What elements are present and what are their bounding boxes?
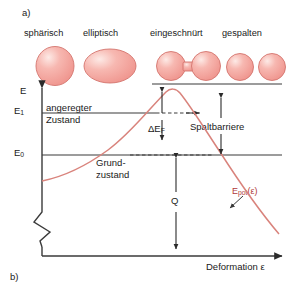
shape-spherical xyxy=(36,47,74,86)
figure-graphics xyxy=(0,0,292,291)
epot-pointer-arrow xyxy=(230,196,243,208)
axis-break-zigzag xyxy=(34,205,50,247)
shape-split xyxy=(227,54,286,81)
shape-elliptical xyxy=(84,49,136,83)
fission-potential-figure: a) b) sphärisch elliptisch eingeschnürt … xyxy=(0,0,292,291)
potential-energy-curve xyxy=(42,89,279,234)
shape-necked xyxy=(157,52,221,81)
